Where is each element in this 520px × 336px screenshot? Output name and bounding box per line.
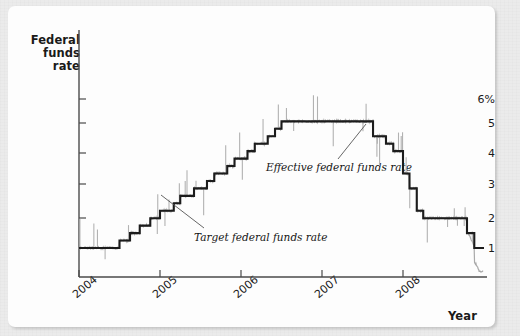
chart-panel: Federal funds rate Year 6% 5 4 3 2 1 200… xyxy=(8,6,495,327)
series-target-federal-funds-rate xyxy=(79,121,484,248)
leader-line-effective xyxy=(338,124,366,159)
plot-svg xyxy=(8,6,495,327)
x-tick-marks xyxy=(79,270,403,277)
figure-root: Federal funds rate Year 6% 5 4 3 2 1 200… xyxy=(0,0,520,336)
